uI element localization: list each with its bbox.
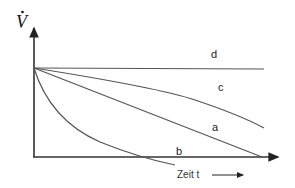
flow-rate-diagram: V d c a b Zeit t	[0, 0, 295, 188]
curve-label-b: b	[176, 145, 182, 157]
curve-label-a: a	[212, 121, 219, 133]
curve-label-c: c	[218, 81, 224, 93]
y-axis-label: V	[16, 12, 29, 32]
curve-label-d: d	[211, 48, 217, 60]
curve-d	[34, 68, 264, 69]
x-axis-label: Zeit t	[177, 169, 199, 180]
curve-a	[34, 68, 262, 157]
y-axis-label-dot-accent	[21, 11, 24, 14]
curve-b	[34, 68, 175, 165]
curve-c	[34, 68, 264, 128]
